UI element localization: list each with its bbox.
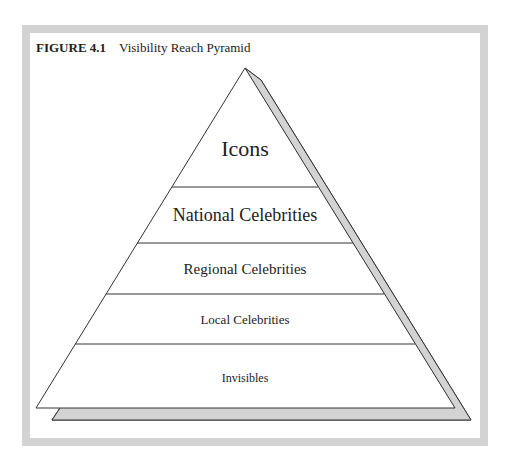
level-label-icons: Icons bbox=[221, 136, 269, 161]
level-label-national: National Celebrities bbox=[173, 205, 317, 225]
level-label-regional: Regional Celebrities bbox=[184, 261, 307, 277]
pyramid-body bbox=[36, 68, 455, 408]
level-label-invisibles: Invisibles bbox=[222, 371, 269, 385]
level-label-local: Local Celebrities bbox=[200, 312, 289, 327]
pyramid-diagram: Icons National Celebrities Regional Cele… bbox=[0, 0, 509, 463]
